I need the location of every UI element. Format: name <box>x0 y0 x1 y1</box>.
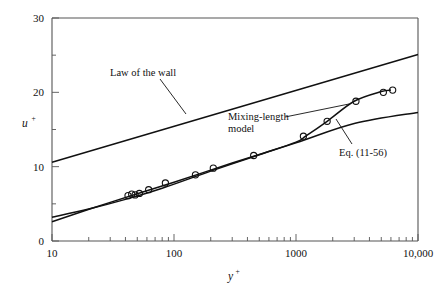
x-axis-title-base: y <box>227 270 234 283</box>
chart-svg: 10100100010,000 0102030 Law of the wall … <box>0 0 446 292</box>
y-axis-title-base: u <box>22 117 28 129</box>
annotation-mixing-length-line2: model <box>228 123 254 134</box>
annotation-eq-11-56: Eq. (11-56) <box>339 147 388 159</box>
x-tick-label: 10,000 <box>403 247 434 259</box>
x-tick-label: 10 <box>47 247 59 259</box>
y-tick-label: 0 <box>39 235 45 247</box>
x-axis-title-superscript: + <box>235 267 240 276</box>
y-tick-label: 20 <box>33 86 45 98</box>
y-axis-title-superscript: + <box>31 114 36 123</box>
annotation-mixing-length-line1: Mixing-length <box>228 111 289 122</box>
x-tick-label: 1000 <box>285 247 308 259</box>
x-tick-label: 100 <box>166 247 183 259</box>
y-tick-label: 30 <box>33 12 45 24</box>
chart-figure: 10100100010,000 0102030 Law of the wall … <box>0 0 446 292</box>
chart-background <box>0 0 446 292</box>
annotation-law-of-the-wall: Law of the wall <box>110 67 176 78</box>
y-tick-label: 10 <box>33 161 45 173</box>
